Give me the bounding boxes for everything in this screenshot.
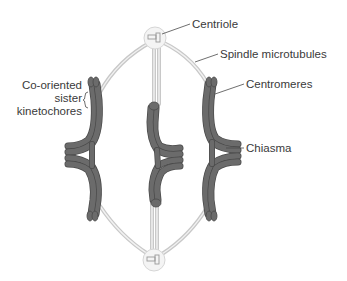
meiosis-spindle-diagram: Centriole Spindle microtubules Centromer…: [0, 0, 347, 281]
label-centromeres: Centromeres: [246, 78, 313, 90]
label-kinetochores-line2: sister: [55, 92, 83, 104]
label-centriole: Centriole: [192, 18, 238, 30]
right-bivalent: [206, 77, 238, 221]
centriole-bottom: [143, 249, 165, 271]
center-bivalent: [149, 102, 180, 207]
centriole-top: [144, 27, 166, 49]
label-spindle-microtubules: Spindle microtubules: [220, 48, 327, 60]
label-chiasma: Chiasma: [246, 142, 292, 154]
label-kinetochores-line3: kinetochores: [17, 105, 82, 117]
label-kinetochores-line1: Co-oriented: [22, 79, 82, 91]
